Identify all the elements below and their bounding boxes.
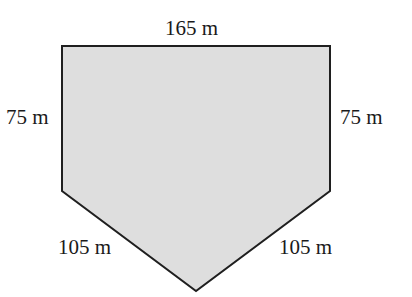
label-left-side: 75 m <box>6 107 49 128</box>
label-bottom-left-side: 105 m <box>58 237 111 258</box>
label-right-side: 75 m <box>340 107 383 128</box>
label-top-side: 165 m <box>165 18 218 39</box>
label-bottom-right-side: 105 m <box>279 237 332 258</box>
